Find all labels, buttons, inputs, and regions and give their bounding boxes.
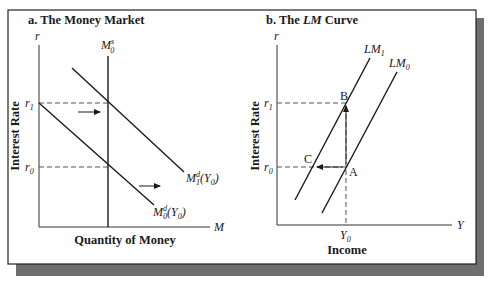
panel-a-title: a. The Money Market [28, 13, 145, 27]
panel-b-y-symbol: r [274, 29, 279, 43]
panel-b-title: b. The LM Curve [266, 13, 359, 27]
point-a-label: A [349, 165, 358, 179]
point-b-label: B [340, 89, 348, 103]
panel-b-y-label: Interest Rate [248, 101, 262, 171]
panel-b-x-label: Income [327, 243, 367, 257]
panel-a-y-symbol: r [35, 29, 40, 43]
panel-a-y-label: Interest Rate [8, 101, 22, 171]
panel-a-x-label: Quantity of Money [74, 233, 176, 247]
lm-curve-figure: a. The Money Market r M Interest Rate Qu… [0, 0, 489, 283]
panel-a-x-symbol: M [213, 220, 225, 234]
point-c-label: C [304, 152, 312, 166]
